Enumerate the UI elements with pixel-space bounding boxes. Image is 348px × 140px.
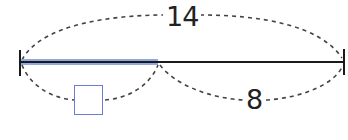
known-part-label: 8 <box>243 86 266 113</box>
total-label: 14 <box>163 3 201 30</box>
tape-diagram: 14 8 <box>0 0 348 140</box>
answer-input-box[interactable] <box>74 85 103 115</box>
